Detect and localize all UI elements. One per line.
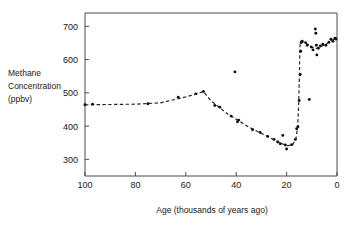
y-axis-title-line2: Concentration <box>8 81 61 91</box>
data-point <box>284 144 287 147</box>
data-point <box>237 119 240 122</box>
data-point <box>310 45 313 48</box>
data-point <box>304 41 307 44</box>
data-point <box>321 43 324 46</box>
data-point <box>308 98 311 101</box>
data-point <box>319 44 322 47</box>
data-point <box>230 115 233 118</box>
y-axis-title-line3: (ppbv) <box>8 94 32 104</box>
x-tick-label: 40 <box>231 180 241 190</box>
data-point <box>273 138 276 141</box>
data-point <box>91 103 94 106</box>
axis-frame <box>85 13 337 176</box>
data-point <box>147 102 150 105</box>
data-point <box>317 47 320 50</box>
y-tick-label: 300 <box>63 155 78 165</box>
data-point <box>294 138 297 141</box>
x-tick-label: 80 <box>130 180 140 190</box>
y-tick-label: 600 <box>63 55 78 65</box>
data-point <box>327 41 330 44</box>
y-tick-label: 500 <box>63 88 78 98</box>
data-point <box>335 38 338 41</box>
data-point <box>315 44 318 47</box>
data-point <box>332 40 335 43</box>
x-tick-label: 20 <box>282 180 292 190</box>
y-tick-label: 400 <box>63 122 78 132</box>
data-point <box>314 28 317 31</box>
x-tick-label: 60 <box>181 180 191 190</box>
x-tick-label: 0 <box>334 180 339 190</box>
data-point <box>299 73 302 76</box>
data-point <box>285 148 288 151</box>
x-axis-title: Age (thousands of years ago) <box>156 205 268 215</box>
methane-concentration-chart: 300400500600700 100806040200 Methane Con… <box>0 0 353 226</box>
data-point <box>298 99 301 102</box>
data-point <box>276 141 279 144</box>
data-point <box>259 131 262 134</box>
data-point <box>301 40 304 43</box>
data-point <box>290 143 293 146</box>
x-axis-tick-labels: 100806040200 <box>77 180 339 190</box>
data-points <box>84 28 338 151</box>
data-point <box>177 96 180 99</box>
y-axis-title: Methane Concentration (ppbv) <box>8 68 61 104</box>
data-point <box>306 44 309 47</box>
data-point <box>296 125 299 128</box>
data-point <box>251 128 254 131</box>
data-point <box>84 103 87 106</box>
data-point <box>202 90 205 93</box>
trend-line <box>85 38 337 145</box>
data-point <box>233 70 236 73</box>
y-axis-ticks <box>85 26 89 159</box>
data-point <box>281 134 284 137</box>
data-point <box>213 104 216 107</box>
data-point <box>315 53 318 56</box>
y-axis-tick-labels: 300400500600700 <box>63 22 78 165</box>
data-point <box>279 142 282 145</box>
data-point <box>299 50 302 53</box>
data-point <box>194 92 197 95</box>
y-axis-title-line1: Methane <box>8 68 41 78</box>
data-point <box>218 106 221 109</box>
x-tick-label: 100 <box>77 180 92 190</box>
data-point <box>324 44 327 47</box>
data-point <box>312 48 315 51</box>
data-point <box>266 135 269 138</box>
data-point <box>314 32 317 35</box>
chart-svg: 300400500600700 100806040200 Methane Con… <box>0 0 353 226</box>
x-axis-ticks <box>85 172 337 176</box>
y-tick-label: 700 <box>63 22 78 32</box>
